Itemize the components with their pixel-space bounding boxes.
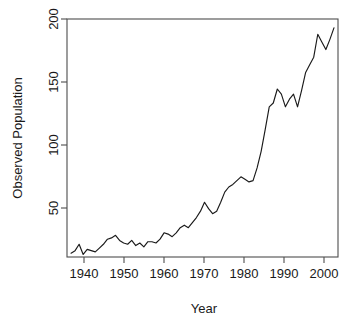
data-series-line xyxy=(71,28,334,255)
x-axis-title: Year xyxy=(191,301,218,316)
line-chart: 200 150 100 50 1940 1950 1960 1970 1980 … xyxy=(0,0,354,327)
y-tick-label: 150 xyxy=(46,71,61,93)
y-axis-title: Observed Population xyxy=(10,77,25,198)
chart-figure: 200 150 100 50 1940 1950 1960 1970 1980 … xyxy=(0,0,354,327)
y-axis-ticks xyxy=(61,19,67,208)
x-tick-label: 1980 xyxy=(230,266,259,281)
x-tick-label: 1990 xyxy=(270,266,299,281)
y-tick-label: 200 xyxy=(46,8,61,30)
x-tick-label: 1940 xyxy=(70,266,99,281)
plot-box xyxy=(67,19,338,257)
y-tick-label: 100 xyxy=(46,134,61,156)
x-tick-label: 2000 xyxy=(310,266,339,281)
x-tick-label: 1970 xyxy=(190,266,219,281)
x-tick-label: 1950 xyxy=(110,266,139,281)
x-axis-tick-labels: 1940 1950 1960 1970 1980 1990 2000 xyxy=(70,266,339,281)
y-tick-label: 50 xyxy=(46,201,61,215)
x-axis-ticks xyxy=(84,257,324,263)
y-axis-tick-labels: 200 150 100 50 xyxy=(46,8,61,215)
x-tick-label: 1960 xyxy=(150,266,179,281)
